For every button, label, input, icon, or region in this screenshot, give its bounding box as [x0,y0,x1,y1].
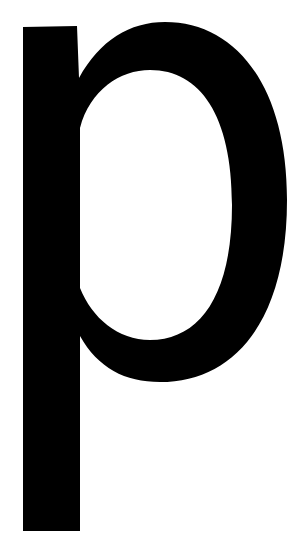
letter-p-shape [0,0,302,545]
letter-p-path [23,22,287,531]
